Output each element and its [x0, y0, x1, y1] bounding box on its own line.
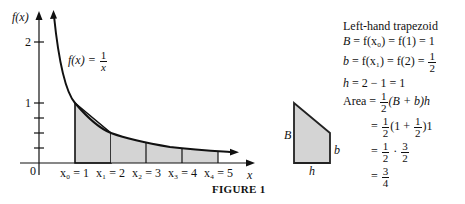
x-point-label-4: x₄ = 5 — [204, 166, 233, 180]
x-axis-label: x — [247, 168, 252, 182]
curve-arrow-right-icon — [230, 149, 239, 156]
y-axis-label: f(x) — [12, 10, 29, 24]
B-equation: B = f(x₀) = f(1) = 1 — [343, 34, 435, 48]
y-axis-arrow-icon — [36, 11, 43, 20]
x-point-label-0: x₀ = 1 — [60, 166, 89, 180]
area-step-2: = 12(1 + 12)1 — [371, 116, 433, 139]
x-axis-arrow-icon — [246, 160, 255, 167]
origin-label: 0 — [30, 164, 36, 178]
trapezoid-b-label: b — [334, 143, 340, 157]
x-point-label-2: x₂ = 3 — [132, 166, 161, 180]
trapezoid-1 — [75, 103, 111, 163]
y-tick-label-1: 1 — [25, 96, 31, 110]
h-equation: h = 2 − 1 = 1 — [343, 76, 405, 90]
curve-arrow-up-icon — [50, 10, 57, 19]
area-step-4: = 34 — [371, 166, 390, 189]
figure-caption: FIGURE 1 — [212, 183, 265, 195]
area-equation: Area = 12(B + b)h — [343, 91, 430, 114]
area-step-3: = 12 · 32 — [371, 141, 410, 164]
y-tick-label-2: 2 — [25, 35, 31, 49]
trapezoid-h-label: h — [309, 164, 315, 178]
x-point-label-1: x₁ = 2 — [96, 166, 125, 180]
function-label: f(x) = 1x — [68, 50, 108, 73]
x-point-label-3: x₃ = 4 — [168, 166, 197, 180]
trapezoids — [75, 103, 218, 163]
derivation-title: Left-hand trapezoid — [343, 19, 438, 33]
b-equation: b = f(x₁) = f(2) = 12 — [343, 51, 437, 74]
trapezoid-diagram — [294, 103, 330, 163]
trapezoid-B-label: B — [284, 128, 291, 142]
